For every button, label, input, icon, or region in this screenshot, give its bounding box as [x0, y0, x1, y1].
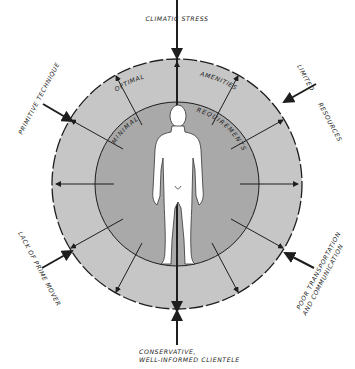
label-limited-resources-1: LIMITED: [296, 63, 316, 92]
arrow-lack-of-prime-mover: [42, 251, 72, 268]
label-limited-resources-2: RESOURCES: [317, 101, 344, 143]
label-lack-of-prime-mover: LACK OF PRIME MOVER: [17, 230, 62, 307]
label-climatic-stress: CLIMATIC STRESS: [145, 15, 208, 22]
arrow-poor-transportation: [285, 253, 314, 268]
arrow-primitive-technique: [43, 104, 72, 121]
label-primitive-technique: PRIMITIVE TECHNIQUE: [17, 61, 61, 135]
diagram-canvas: OPTIMAL AMENITIES MINIMAL REQUIREMENTS C…: [0, 0, 355, 369]
label-poor-transportation-1: POOR TRANSPORTATION: [295, 230, 342, 310]
label-conservative-2: WELL-INFORMED CLIENTELE: [139, 356, 240, 363]
label-conservative-1: CONSERVATIVE,: [139, 348, 196, 355]
